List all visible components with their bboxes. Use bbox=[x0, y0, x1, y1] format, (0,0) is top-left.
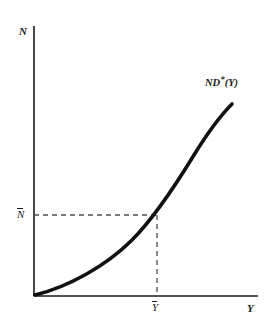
x-tick-label-text: Y bbox=[152, 301, 158, 313]
curve-label-base: ND bbox=[205, 77, 220, 88]
x-axis-label: Y bbox=[247, 303, 254, 314]
labour-demand-figure: N Y N Y ND*(Y) bbox=[0, 0, 268, 322]
y-tick-label-text: N bbox=[17, 208, 24, 220]
nd-curve bbox=[35, 104, 232, 295]
plot-area bbox=[0, 0, 268, 322]
y-tick-label-n-bar: N bbox=[17, 208, 24, 220]
y-axis-label: N bbox=[19, 26, 27, 37]
curve-label-argument: (Y) bbox=[225, 77, 238, 88]
curve-label: ND*(Y) bbox=[205, 78, 238, 89]
x-tick-label-y-bar: Y bbox=[152, 301, 158, 313]
